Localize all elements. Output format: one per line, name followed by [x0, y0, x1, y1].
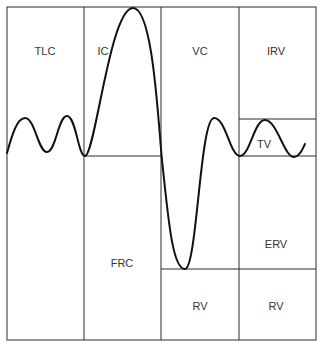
label-tv: TV: [257, 138, 271, 150]
label-vc: VC: [192, 45, 207, 57]
label-irv: IRV: [267, 45, 285, 57]
label-tlc: TLC: [35, 45, 56, 57]
label-rv-vc-column: RV: [192, 300, 207, 312]
label-frc: FRC: [111, 257, 134, 269]
label-ic: IC: [98, 45, 109, 57]
label-rv-right-column: RV: [268, 300, 283, 312]
label-erv: ERV: [265, 238, 287, 250]
